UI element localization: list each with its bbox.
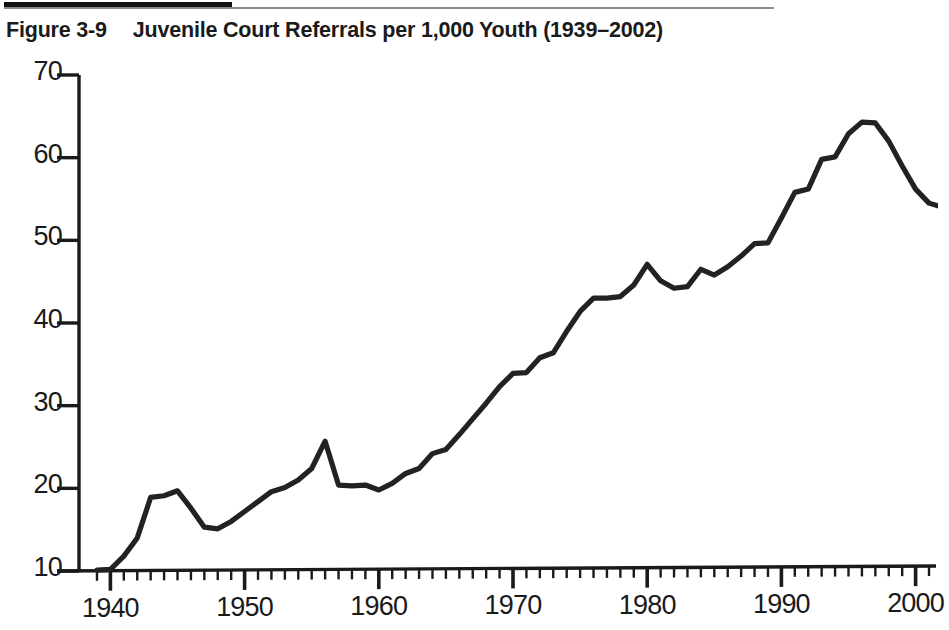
x-axis-tick-label: 1960 (324, 591, 434, 622)
x-axis-tick-label: 1970 (458, 590, 568, 621)
x-axis-tick-label: 2000 (861, 588, 949, 619)
figure-number-label: Figure 3-9 (6, 18, 107, 43)
y-axis-tick-label: 40 (0, 304, 62, 335)
figure-title: Figure 3-9 Juvenile Court Referrals per … (6, 13, 926, 47)
y-axis-tick-label: 10 (0, 552, 62, 583)
y-axis-tick-label: 50 (0, 221, 62, 252)
y-axis-tick-label: 30 (0, 387, 62, 418)
figure-caption-text: Juvenile Court Referrals per 1,000 Youth… (133, 18, 663, 43)
header-rule-thin (4, 7, 774, 9)
y-axis-tick-label: 20 (0, 469, 62, 500)
chart-canvas (0, 48, 938, 630)
y-axis-tick-label: 60 (0, 139, 62, 170)
chart-axes (57, 75, 936, 571)
x-axis-tick-label: 1990 (726, 589, 836, 620)
y-axis-tick-label: 70 (0, 56, 62, 87)
x-axis-tick-label: 1940 (55, 593, 165, 624)
line-chart: 10203040506070 1940195019601970198019902… (0, 48, 938, 630)
x-axis-tick-label: 1980 (592, 590, 702, 621)
referral-rate-line (97, 122, 938, 570)
x-axis-line (57, 566, 936, 571)
data-series-group (97, 122, 938, 570)
x-axis-tick-label: 1950 (190, 592, 300, 623)
